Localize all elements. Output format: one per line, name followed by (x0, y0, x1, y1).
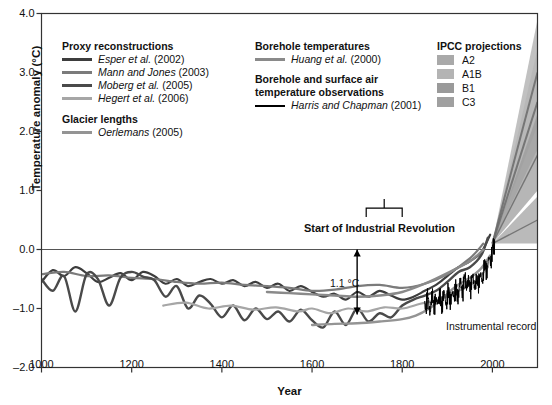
legend-item-label: Oerlemans (2005) (98, 126, 183, 139)
legend-item-label: Mann and Jones (2003) (98, 66, 209, 79)
legend-line-swatch (62, 131, 92, 134)
legend-glacier-items: Oerlemans (2005) (62, 126, 183, 139)
legend-item[interactable]: Huang et al. (2000) (255, 53, 381, 66)
legend-item[interactable]: Mann and Jones (2003) (62, 66, 209, 79)
legend-glacier-lengths: Glacier lengths Oerlemans (2005) (62, 113, 183, 139)
series-line-mann-and-jones-2003 (42, 244, 484, 291)
legend-ipcc-projections: IPCC projections A2A1BB1C3 (437, 40, 522, 109)
legend-proxy-heading: Proxy reconstructions (62, 40, 209, 53)
x-tick-label: 1800 (372, 358, 432, 370)
legend-item-label: Moberg et al. (2005) (98, 79, 193, 92)
legend-ipcc-items: A2A1BB1C3 (437, 53, 522, 109)
y-tick-label: 0.0 (1, 243, 35, 255)
legend-surface-heading-line2: temperature observations (255, 86, 421, 99)
legend-line-swatch (255, 58, 285, 61)
legend-color-swatch (437, 55, 454, 65)
legend-borehole-heading: Borehole temperatures (255, 40, 381, 53)
arrow-head-up (354, 250, 361, 257)
legend-surface-observations: Borehole and surface air temperature obs… (255, 73, 421, 112)
legend-item-label: B1 (462, 82, 475, 95)
y-tick-label: 2.0 (1, 125, 35, 137)
legend-color-swatch (437, 97, 454, 107)
legend-item-ipcc[interactable]: A2 (437, 53, 522, 67)
legend-line-swatch (62, 84, 92, 87)
annotation-delta-temperature: 1.1 °C (330, 277, 359, 289)
legend-item-label: A1B (462, 68, 482, 81)
legend-line-swatch (62, 97, 92, 100)
legend-line-swatch (255, 105, 285, 107)
legend-borehole-items: Huang et al. (2000) (255, 53, 381, 66)
x-tick-label: 1400 (192, 358, 252, 370)
y-tick-label: 1.0 (1, 184, 35, 196)
y-tick-label: 3.0 (1, 66, 35, 78)
x-tick-label: 2000 (462, 358, 522, 370)
annotation-instrumental-record: Instrumental record (446, 320, 536, 332)
legend-item-label: Huang et al. (2000) (291, 53, 381, 66)
legend-item-label: Harris and Chapman (2001) (291, 99, 421, 112)
legend-item-ipcc[interactable]: C3 (437, 95, 522, 109)
legend-color-swatch (437, 69, 454, 79)
legend-item-ipcc[interactable]: B1 (437, 81, 522, 95)
legend-borehole-temperatures: Borehole temperatures Huang et al. (2000… (255, 40, 381, 66)
legend-item[interactable]: Moberg et al. (2005) (62, 79, 209, 92)
legend-item-ipcc[interactable]: A1B (437, 67, 522, 81)
series-line-esper-et-al-2002 (42, 235, 491, 300)
legend-ipcc-heading: IPCC projections (437, 40, 522, 53)
legend-item-label: A2 (462, 54, 475, 67)
legend-glacier-heading: Glacier lengths (62, 113, 183, 126)
legend-surface-heading-line1: Borehole and surface air (255, 73, 421, 86)
annotation-industrial-revolution: Start of Industrial Revolution (304, 222, 455, 234)
legend-item-label: C3 (462, 96, 475, 109)
legend-line-swatch (62, 58, 92, 61)
legend-item-label: Esper et al. (2002) (98, 53, 184, 66)
y-tick-label: –1.0 (1, 302, 35, 314)
legend-surface-items: Harris and Chapman (2001) (255, 99, 421, 112)
x-tick-label: 1000 (12, 358, 72, 370)
x-tick-label: 1600 (282, 358, 342, 370)
legend-item-label: Hegert et al. (2006) (98, 92, 188, 105)
legend-line-swatch (62, 71, 92, 74)
x-axis-title: Year (41, 385, 538, 397)
legend-item[interactable]: Hegert et al. (2006) (62, 92, 209, 105)
legend-proxy-reconstructions: Proxy reconstructions Esper et al. (2002… (62, 40, 209, 105)
legend-item[interactable]: Oerlemans (2005) (62, 126, 183, 139)
industrial-revolution-bracket (366, 199, 402, 217)
x-tick-label: 1200 (102, 358, 162, 370)
legend-item[interactable]: Esper et al. (2002) (62, 53, 209, 66)
y-tick-label: 4.0 (1, 7, 35, 19)
legend-proxy-items: Esper et al. (2002)Mann and Jones (2003)… (62, 53, 209, 105)
y-axis-title: Temperature anomaly (°C) (30, 28, 42, 208)
climate-anomaly-chart: Temperature anomaly (°C) Year 4.03.02.01… (0, 0, 552, 405)
legend-color-swatch (437, 83, 454, 93)
legend-item[interactable]: Harris and Chapman (2001) (255, 99, 421, 112)
